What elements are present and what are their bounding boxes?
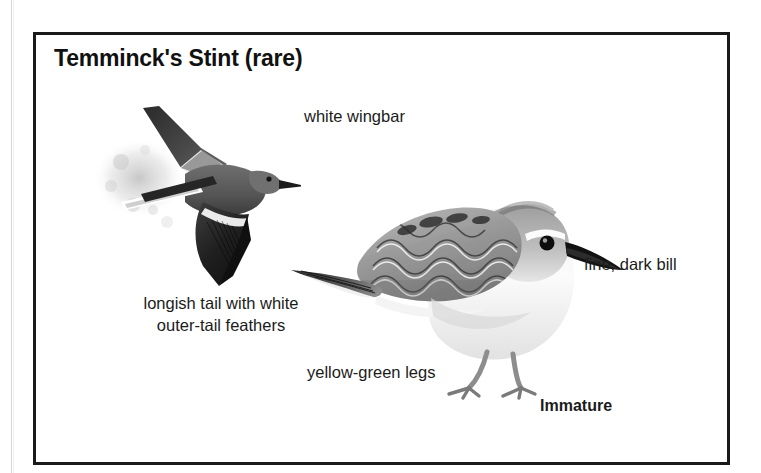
- page-title: Temminck's Stint (rare): [54, 45, 302, 72]
- flying-bird-figure: [81, 90, 301, 300]
- illustration-plate-inner: Temminck's Stint (rare): [36, 35, 727, 462]
- standing-bird-figure: [281, 130, 631, 400]
- callout-yellow-green-legs: yellow-green legs: [307, 362, 435, 384]
- scan-gutter-line-secondary: [13, 0, 14, 473]
- callout-longish-tail-line1: longish tail with white: [144, 294, 299, 312]
- illustration-plate-frame: Temminck's Stint (rare): [33, 32, 730, 465]
- callout-fine-dark-bill: fine, dark bill: [584, 254, 677, 276]
- callout-longish-tail-line2: outer-tail feathers: [157, 316, 285, 334]
- scan-gutter-line: [11, 0, 12, 473]
- callout-longish-tail: longish tail with white outer-tail feath…: [106, 293, 336, 337]
- scanned-field-guide-page: Temminck's Stint (rare): [0, 0, 761, 473]
- callout-white-wingbar: white wingbar: [304, 106, 405, 128]
- age-label-immature: Immature: [540, 395, 612, 416]
